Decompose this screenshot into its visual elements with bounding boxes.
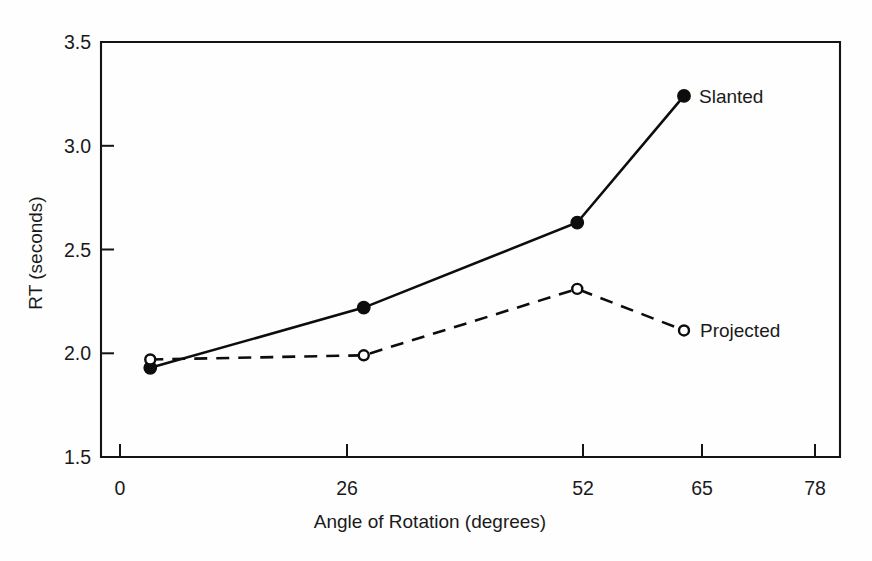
data-point [571,216,583,228]
figure-container: 1.5 2.0 2.5 3.0 3.5 0 26 52 65 78 Angle … [0,0,872,561]
data-point [358,301,370,313]
data-point [359,350,369,360]
line-chart: 1.5 2.0 2.5 3.0 3.5 0 26 52 65 78 Angle … [0,0,872,561]
data-point [678,90,690,102]
x-axis-title: Angle of Rotation (degrees) [314,511,546,532]
x-tick-label-4: 65 [691,477,713,499]
y-tick-label-4: 3.0 [64,135,91,157]
y-tick-label-2: 2.0 [64,342,91,364]
data-point [679,325,689,335]
series-projected-line [150,289,684,360]
series-projected [145,284,689,365]
x-tick-label-3: 52 [572,477,594,499]
y-tick-label-1: 1.5 [64,446,91,468]
x-tick-label-2: 26 [336,477,358,499]
y-tick-label-5: 3.5 [64,31,91,53]
y-axis-tick-labels: 1.5 2.0 2.5 3.0 3.5 [64,31,91,468]
series-slanted-markers [144,90,690,374]
series-slanted [144,90,690,374]
series-slanted-line [150,96,684,368]
series-label-projected: Projected [700,320,780,341]
x-tick-label-5: 78 [804,477,826,499]
y-axis-ticks [101,42,114,457]
data-point [572,284,582,294]
data-point [145,354,155,364]
y-tick-label-3: 2.5 [64,239,91,261]
series-label-slanted: Slanted [699,86,763,107]
x-tick-label-1: 0 [115,477,126,499]
x-axis-ticks [120,444,815,457]
series-projected-markers [145,284,689,365]
x-axis-tick-labels: 0 26 52 65 78 [115,477,826,499]
y-axis-title: RT (seconds) [25,196,46,309]
